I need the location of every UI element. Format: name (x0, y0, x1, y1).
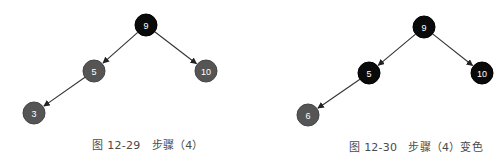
tree-edge-arrow (318, 79, 360, 108)
tree-edge-arrow (433, 34, 473, 66)
edges-layer (44, 32, 473, 109)
node-label: 5 (366, 69, 371, 79)
figure-caption-12-29: 图 12-29 步骤（4） (92, 136, 203, 152)
tree-node-5-black: 5 (358, 62, 380, 84)
tree-node-10-black: 10 (471, 62, 493, 84)
tree-diagrams: 9510395106 (0, 0, 504, 159)
tree-edge-arrow (103, 32, 138, 63)
tree-node-3-red: 3 (23, 102, 45, 124)
node-label: 10 (201, 67, 211, 77)
tree-node-9-black: 9 (135, 14, 157, 36)
node-label: 5 (91, 67, 96, 77)
node-label: 9 (143, 21, 148, 31)
tree-node-5-red: 5 (83, 60, 105, 82)
node-label: 10 (477, 69, 487, 79)
node-label: 9 (421, 23, 426, 33)
nodes-layer: 9510395106 (23, 14, 493, 126)
tree-edge-arrow (44, 77, 85, 106)
node-label: 3 (31, 109, 36, 119)
tree-node-10-red: 10 (195, 60, 217, 82)
tree-node-9-black: 9 (413, 16, 435, 38)
node-label: 6 (305, 111, 310, 121)
figure-caption-12-30: 图 12-30 步骤（4）变色 (349, 138, 482, 154)
tree-edge-arrow (155, 32, 197, 64)
tree-node-6-red: 6 (297, 104, 319, 126)
tree-edge-arrow (378, 34, 415, 65)
